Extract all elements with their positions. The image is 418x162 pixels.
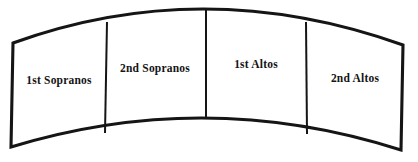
section-divider-3 [306,22,307,134]
seating-chart-svg: 1st Sopranos 2nd Sopranos 1st Altos 2nd … [0,0,418,162]
section-label-2nd-altos: 2nd Altos [331,72,379,84]
section-label-2nd-sopranos: 2nd Sopranos [120,62,190,75]
section-label-1st-sopranos: 1st Sopranos [26,74,92,87]
section-label-1st-altos: 1st Altos [234,58,278,70]
choir-seating-diagram: 1st Sopranos 2nd Sopranos 1st Altos 2nd … [0,0,418,162]
